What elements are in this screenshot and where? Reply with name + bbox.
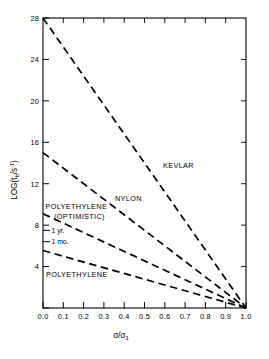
series-line-nylon (43, 153, 246, 308)
svg-text:LOG(tb/s-1): LOG(tb/s-1) (9, 160, 20, 200)
x-tick-label-0: 0.0 (38, 312, 49, 321)
chart-figure: 4 8 12 16 20 24 28 1 yr. 1 mo. (0, 0, 269, 359)
x-tick-label-7: 0.7 (180, 312, 191, 321)
x-axis-title: σ/σ1 (113, 331, 129, 341)
series-label-polyethylene: POLYETHYLENE (46, 270, 108, 279)
svg-text:σ/σ1: σ/σ1 (113, 331, 129, 341)
x-tick-label-4: 0.4 (119, 312, 130, 321)
x-tick-label-5: 0.5 (139, 312, 150, 321)
x-tick-label-10: 1.0 (241, 312, 252, 321)
y-axis-title-main: LOG(t (10, 177, 19, 200)
series-line-polyethylene (43, 251, 246, 309)
x-axis-title-subscript: 1 (126, 335, 130, 341)
series-line-kevlar (43, 18, 246, 308)
series-line-polyethylene-optimistic (43, 214, 246, 308)
y-tick-label-28: 28 (30, 14, 39, 23)
series-label-nylon: NYLON (115, 194, 142, 203)
y-axis-ticks (43, 18, 49, 308)
x-tick-label-6: 0.6 (159, 312, 170, 321)
y-tick-label-16: 16 (30, 138, 39, 147)
y-tick-label-4: 4 (35, 262, 39, 271)
series-label-kevlar: KEVLAR (163, 161, 194, 170)
y-tick-label-20: 20 (30, 97, 39, 106)
reference-ticks: 1 yr. 1 mo. (43, 227, 69, 245)
x-tick-label-2: 0.2 (78, 312, 89, 321)
reference-label-1yr: 1 yr. (52, 227, 65, 235)
y-axis-title-close: ) (10, 160, 19, 163)
series-label-polyethylene-optimistic-qualifier: (OPTIMISTIC) (54, 212, 105, 221)
y-tick-label-12: 12 (30, 180, 39, 189)
x-tick-label-9: 0.9 (220, 312, 231, 321)
series-label-polyethylene-optimistic: POLYETHYLENE (46, 202, 108, 211)
reference-label-1mo: 1 mo. (52, 238, 69, 245)
x-tick-label-1: 0.1 (58, 312, 69, 321)
x-tick-label-8: 0.8 (200, 312, 211, 321)
y-tick-label-8: 8 (35, 221, 39, 230)
plot-area: 4 8 12 16 20 24 28 1 yr. 1 mo. (0, 0, 269, 359)
x-tick-label-3: 0.3 (98, 312, 109, 321)
x-axis-title-text: σ/σ (113, 331, 125, 340)
y-tick-label-24: 24 (30, 55, 39, 64)
y-axis-title: LOG(tb/s-1) (9, 160, 20, 200)
